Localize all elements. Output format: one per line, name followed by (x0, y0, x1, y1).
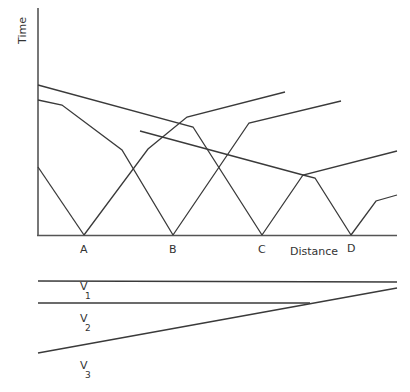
station-label-d: D (347, 242, 355, 255)
svg-text:2: 2 (85, 323, 91, 333)
time-axis-label: Time (16, 17, 29, 45)
curve-forward-from-c (262, 151, 397, 235)
distance-axis-label: Distance (290, 245, 338, 258)
curve-reverse-from-d (140, 131, 351, 235)
interface-2-dipping-line (38, 288, 397, 353)
svg-text:1: 1 (85, 291, 91, 301)
curve-forward-from-d (351, 195, 397, 235)
curve-reverse-from-b (38, 100, 173, 235)
layer-label-v3: V 3 (80, 359, 91, 380)
curve-forward-from-a-left (38, 167, 84, 235)
surface-line (38, 281, 397, 282)
svg-text:3: 3 (85, 370, 91, 380)
layer-label-v2: V 2 (80, 312, 91, 333)
curve-reverse-from-c (38, 85, 262, 235)
station-label-a: A (80, 243, 88, 256)
curve-forward-from-a (84, 92, 285, 235)
layer-label-v1: V 1 (80, 280, 91, 301)
curve-forward-from-b (173, 101, 341, 235)
station-label-c: C (258, 243, 266, 256)
station-label-b: B (169, 243, 177, 256)
refraction-diagram: Time Distance A B C D V 1 V 2 V 3 (0, 0, 410, 392)
